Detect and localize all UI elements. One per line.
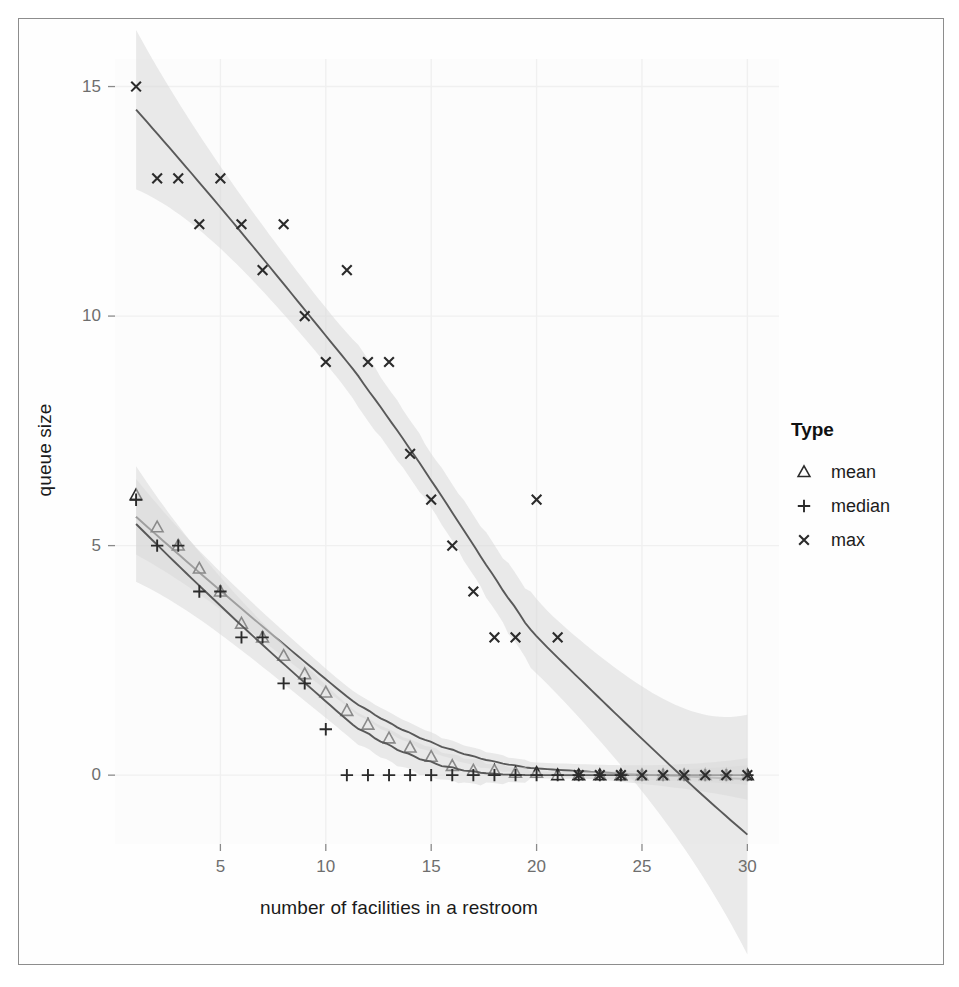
x-tick-label-20: 20 [527,857,546,877]
legend-item-mean[interactable]: mean [789,455,939,489]
legend-marker-plus-icon [789,494,819,518]
x-tick-label-25: 25 [633,857,652,877]
x-tick-label-10: 10 [316,857,335,877]
x-axis-title: number of facilities in a restroom [19,897,779,919]
legend-title: Type [791,419,939,441]
legend-label-mean: mean [831,462,876,483]
marker-plus [798,500,810,512]
y-tick-label-5: 5 [57,536,101,556]
y-tick-label-15: 15 [57,77,101,97]
legend: Type meanmedianmax [789,419,939,557]
legend-item-median[interactable]: median [789,489,939,523]
x-tick-label-5: 5 [216,857,225,877]
y-tick-label-10: 10 [57,306,101,326]
chart-plot-area: queue size number of facilities in a res… [19,19,943,964]
y-tick-label-0: 0 [57,765,101,785]
x-tick-label-30: 30 [738,857,757,877]
marker-triangle [798,466,810,477]
x-tick-label-15: 15 [422,857,441,877]
legend-marker-triangle-icon [789,460,819,484]
legend-marker-cross-icon [789,528,819,552]
legend-item-max[interactable]: max [789,523,939,557]
legend-label-max: max [831,530,865,551]
legend-label-median: median [831,496,890,517]
marker-cross [799,535,809,545]
y-axis-title: queue size [34,340,56,560]
legend-entries: meanmedianmax [789,455,939,557]
figure-border: queue size number of facilities in a res… [18,18,944,965]
